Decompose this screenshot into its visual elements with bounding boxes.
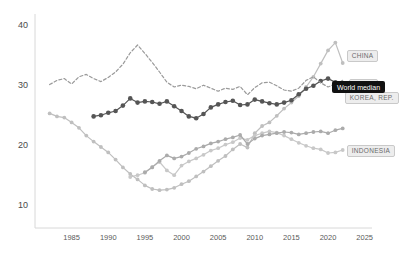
data-point [55, 115, 59, 119]
data-point [172, 157, 176, 161]
data-point [209, 164, 213, 168]
data-point [209, 105, 214, 110]
data-point [92, 140, 96, 144]
data-point [172, 173, 176, 177]
data-point [246, 146, 250, 150]
data-point [282, 130, 286, 134]
data-point [202, 145, 206, 149]
x-axis-tick-label: 2005 [210, 233, 227, 242]
data-point [187, 179, 191, 183]
data-point [253, 137, 257, 141]
data-point [194, 157, 198, 161]
x-axis-tick-label: 2000 [173, 233, 190, 242]
data-point [311, 84, 316, 89]
data-point [238, 142, 242, 146]
data-point [268, 133, 272, 137]
data-point [252, 97, 257, 102]
x-axis-tick-label: 1985 [63, 233, 80, 242]
data-point [297, 141, 301, 145]
series-line-indonesia [130, 131, 342, 177]
data-point [326, 76, 331, 81]
data-point [179, 109, 184, 114]
data-point [62, 116, 66, 120]
data-point [136, 173, 140, 177]
y-axis-tick-label: 40 [18, 20, 28, 30]
data-point [341, 148, 345, 152]
data-point [136, 178, 140, 182]
data-point [333, 151, 337, 155]
data-point [333, 41, 337, 45]
data-point [70, 121, 74, 125]
data-point [202, 170, 206, 174]
data-point [246, 142, 250, 146]
data-point [158, 188, 162, 192]
data-point [290, 131, 294, 135]
series-end-label-china[interactable]: CHINA [347, 50, 379, 62]
data-point [216, 140, 220, 144]
data-point [172, 104, 177, 109]
data-point [91, 114, 96, 119]
data-point [224, 154, 228, 158]
data-point [311, 146, 315, 150]
series-line-korea-rep [50, 45, 343, 95]
data-point [187, 114, 192, 119]
data-point [180, 155, 184, 159]
data-point [304, 87, 309, 92]
data-point [341, 126, 345, 130]
data-point [209, 149, 213, 153]
data-point [194, 116, 199, 121]
data-point [172, 186, 176, 190]
data-point [238, 103, 243, 108]
data-point [275, 131, 279, 135]
data-point [268, 121, 272, 125]
data-point [260, 99, 265, 104]
data-point [187, 151, 191, 155]
series-end-label-korea[interactable]: KOREA, REP. [345, 92, 399, 104]
data-point [341, 61, 345, 65]
data-point [246, 138, 250, 142]
series-line-world [145, 128, 343, 172]
data-point [216, 159, 220, 163]
data-point [121, 166, 125, 170]
data-point [106, 151, 110, 155]
data-point [282, 100, 287, 105]
data-point [311, 130, 315, 134]
data-point [157, 102, 162, 107]
data-point [165, 154, 169, 158]
data-point [165, 188, 169, 192]
series-end-label-indonesia[interactable]: INDONESIA [347, 145, 395, 157]
data-point [201, 112, 206, 117]
data-point [231, 148, 235, 152]
data-point [231, 99, 236, 104]
data-point [194, 175, 198, 179]
y-axis-tick-label: 20 [18, 140, 28, 150]
data-point [224, 143, 228, 147]
data-point [326, 151, 330, 155]
data-point [128, 175, 132, 179]
x-axis-tick-label: 1990 [100, 233, 117, 242]
data-point [143, 99, 148, 104]
data-point [84, 134, 88, 138]
data-point [297, 133, 301, 137]
x-axis-tick-label: 2015 [283, 233, 300, 242]
data-point [180, 164, 184, 168]
data-point [319, 130, 323, 134]
data-point [113, 109, 118, 114]
data-point [267, 101, 272, 106]
x-axis-tick-label: 2010 [246, 233, 263, 242]
data-point [260, 134, 264, 138]
data-point [224, 137, 228, 141]
data-point [48, 112, 52, 116]
data-point [275, 114, 279, 118]
data-point [150, 100, 155, 105]
x-axis-tick-label: 1995 [137, 233, 154, 242]
x-axis-tick-label: 2025 [356, 233, 373, 242]
data-point [326, 49, 330, 53]
data-point [114, 158, 118, 162]
data-point [121, 103, 126, 108]
data-point [150, 166, 154, 170]
data-point [282, 134, 286, 138]
data-point [304, 131, 308, 135]
